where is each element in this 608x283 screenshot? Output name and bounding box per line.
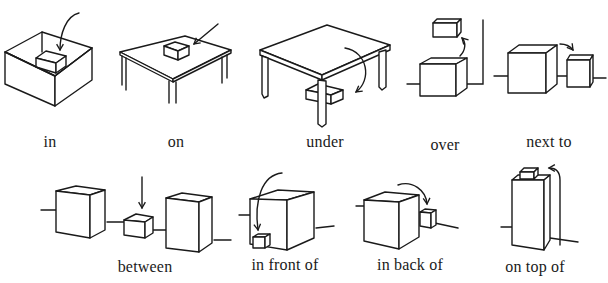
figure-over <box>407 19 483 96</box>
figure-in-front-of <box>239 173 334 250</box>
label-between: between <box>118 258 173 276</box>
label-over: over <box>430 136 459 154</box>
label-on-top-of: on top of <box>505 258 565 276</box>
label-next-to: next to <box>526 133 571 151</box>
figure-on-top-of <box>501 168 578 250</box>
figure-in <box>5 13 92 106</box>
label-in-back-of: in back of <box>377 256 443 274</box>
figure-on <box>120 24 231 103</box>
illustrations <box>0 0 608 283</box>
figure-under <box>260 25 390 127</box>
figure-in-back-of <box>356 184 458 249</box>
figure-between <box>41 177 231 252</box>
label-on: on <box>168 133 184 151</box>
label-in: in <box>44 133 57 151</box>
figure-next-to <box>494 44 606 93</box>
label-under: under <box>306 133 343 151</box>
label-in-front-of: in front of <box>251 256 318 274</box>
